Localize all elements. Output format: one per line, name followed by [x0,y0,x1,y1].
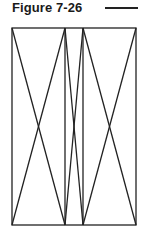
middle-panel-x [65,28,83,225]
right-panel-x [83,28,136,225]
left-panel-x [12,28,65,225]
figure-diagram [0,0,143,232]
